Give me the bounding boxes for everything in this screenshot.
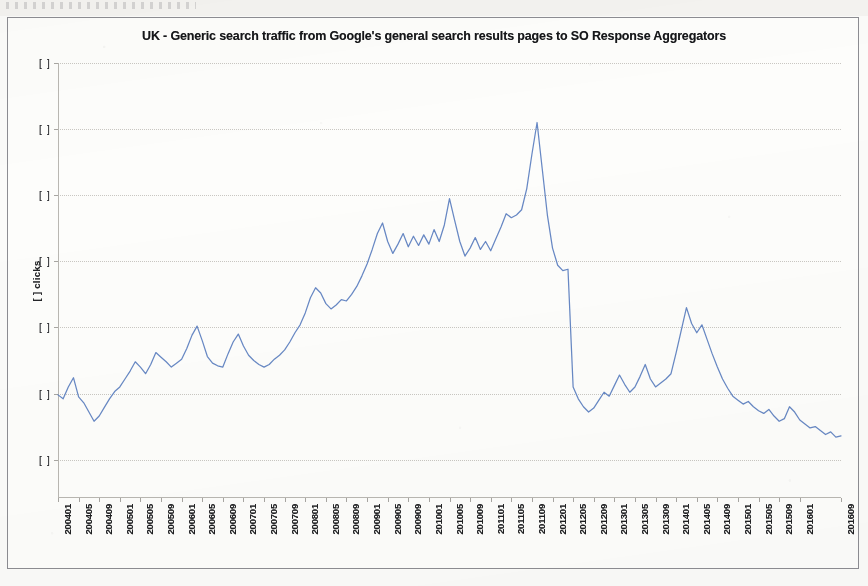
x-tick-mark: [223, 498, 224, 502]
x-tick-label: 200501: [124, 504, 135, 535]
x-tick-label: 201105: [515, 504, 526, 534]
x-tick-label: 200801: [309, 504, 320, 535]
x-tick-label: 200609: [227, 504, 238, 535]
x-tick-label: 201505: [763, 504, 774, 535]
y-tick-label: [ ]: [39, 388, 51, 399]
y-axis-title: [ ] clicks: [31, 260, 42, 301]
x-tick-mark: [346, 498, 347, 502]
x-tick-label: 200401: [62, 504, 73, 535]
page-top-edge: [0, 0, 868, 16]
x-tick-mark: [553, 498, 554, 502]
x-tick-label: 201205: [577, 504, 588, 535]
x-tick-mark: [182, 498, 183, 502]
x-tick-mark: [532, 498, 533, 502]
x-tick-mark: [697, 498, 698, 502]
x-tick-label: 201001: [433, 504, 444, 535]
x-tick-label: 201609: [845, 504, 856, 535]
x-tick-mark: [573, 498, 574, 502]
screenshot-root: UK - Generic search traffic from Google'…: [0, 0, 868, 586]
x-tick-mark: [264, 498, 265, 502]
plot-area: [ ][ ][ ][ ][ ][ ][ ] 200401200405200409…: [58, 63, 841, 498]
x-tick-label: 200905: [392, 504, 403, 535]
x-tick-mark: [511, 498, 512, 502]
x-tick-mark: [58, 498, 59, 502]
x-tick-mark: [491, 498, 492, 502]
x-tick-label: 201005: [454, 504, 465, 535]
x-tick-label: 201301: [618, 504, 629, 535]
y-tick-label: [ ]: [39, 322, 51, 333]
x-tick-label: 201109: [536, 504, 547, 534]
x-tick-mark: [841, 498, 842, 502]
x-tick-label: 200909: [412, 504, 423, 535]
x-tick-label: 201409: [721, 504, 732, 535]
x-tick-mark: [79, 498, 80, 502]
x-tick-mark: [140, 498, 141, 502]
y-tick-label: [ ]: [39, 454, 51, 465]
x-tick-label: 201309: [660, 504, 671, 535]
x-tick-label: 201601: [804, 504, 815, 535]
x-tick-label: 200709: [289, 504, 300, 535]
x-tick-mark: [635, 498, 636, 502]
x-tick-mark: [450, 498, 451, 502]
chart-frame: UK - Generic search traffic from Google'…: [7, 17, 859, 569]
x-tick-mark: [408, 498, 409, 502]
x-tick-mark: [161, 498, 162, 502]
x-tick-label: 201209: [598, 504, 609, 535]
x-tick-mark: [656, 498, 657, 502]
y-tick-label: [ ]: [39, 58, 51, 69]
x-tick-mark: [614, 498, 615, 502]
x-tick-label: 201101: [495, 504, 506, 534]
x-tick-label: 200701: [247, 504, 258, 535]
x-tick-label: 200405: [83, 504, 94, 535]
x-tick-mark: [367, 498, 368, 502]
x-tick-mark: [676, 498, 677, 502]
x-tick-mark: [779, 498, 780, 502]
x-tick-mark: [305, 498, 306, 502]
series-path: [58, 123, 841, 438]
x-tick-mark: [800, 498, 801, 502]
x-tick-label: 200509: [165, 504, 176, 535]
x-tick-mark: [99, 498, 100, 502]
x-tick-mark: [120, 498, 121, 502]
x-tick-label: 200605: [206, 504, 217, 535]
x-tick-mark: [202, 498, 203, 502]
x-tick-mark: [759, 498, 760, 502]
x-tick-label: 200901: [371, 504, 382, 535]
x-tick-mark: [738, 498, 739, 502]
x-tick-label: 201501: [742, 504, 753, 535]
x-tick-label: 201401: [680, 504, 691, 535]
x-tick-label: 200809: [350, 504, 361, 535]
x-tick-label: 201509: [783, 504, 794, 535]
x-tick-label: 200805: [330, 504, 341, 535]
x-tick-mark: [429, 498, 430, 502]
series-line-chart: [58, 63, 841, 498]
x-tick-mark: [594, 498, 595, 502]
x-tick-label: 201009: [474, 504, 485, 535]
x-tick-label: 200601: [186, 504, 197, 535]
x-tick-mark: [470, 498, 471, 502]
x-tick-mark: [717, 498, 718, 502]
y-tick-label: [ ]: [39, 124, 51, 135]
x-tick-mark: [285, 498, 286, 502]
y-tick-label: [ ]: [39, 190, 51, 201]
x-tick-label: 201305: [639, 504, 650, 535]
x-tick-mark: [388, 498, 389, 502]
x-tick-mark: [243, 498, 244, 502]
x-tick-label: 201405: [701, 504, 712, 535]
x-tick-label: 201201: [557, 504, 568, 535]
x-tick-label: 200409: [103, 504, 114, 535]
x-tick-label: 200705: [268, 504, 279, 535]
x-tick-mark: [326, 498, 327, 502]
chart-title: UK - Generic search traffic from Google'…: [8, 29, 860, 43]
x-tick-label: 200505: [144, 504, 155, 535]
